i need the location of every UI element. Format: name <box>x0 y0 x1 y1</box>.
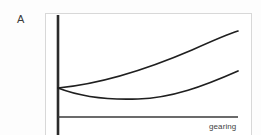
top-bleed-fragment-1: — <box>6 0 16 4</box>
chart-screenshot: — — A gearing <box>0 0 261 135</box>
chart-plot-area <box>46 14 252 135</box>
series-upper-curve <box>58 31 238 88</box>
x-axis-label-gearing: gearing <box>209 122 236 131</box>
series-lower-curve <box>58 71 238 99</box>
panel-label-a: A <box>17 13 25 25</box>
top-bleed-fragment-2: — <box>46 0 56 4</box>
chart-frame <box>45 13 252 135</box>
top-edge-text-bleed: — — <box>0 0 261 5</box>
